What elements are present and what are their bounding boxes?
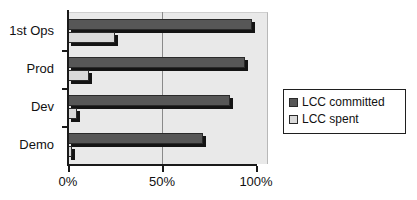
bar-body <box>68 19 252 30</box>
x-axis-tick <box>162 166 164 172</box>
y-axis-label: Prod <box>27 62 62 76</box>
y-axis-label: Dev <box>31 100 62 114</box>
y-axis-tick <box>62 126 68 128</box>
legend-item: LCC committed <box>289 94 400 111</box>
bar-shadow-bottom <box>71 43 118 46</box>
chart-legend: LCC committed LCC spent <box>283 89 406 134</box>
bar-shadow-bottom <box>71 144 206 147</box>
bar-body <box>68 70 89 81</box>
bar-shadow-bottom <box>71 68 248 71</box>
bar-body <box>68 108 77 119</box>
legend-label-spent: LCC spent <box>302 113 359 126</box>
bar-committed <box>68 95 230 106</box>
y-axis-labels: 1st OpsProdDevDemo <box>0 0 62 200</box>
bar-body <box>68 133 203 144</box>
x-axis-tick <box>68 166 70 172</box>
bar-body <box>68 32 115 43</box>
x-axis-label: 0% <box>38 174 98 189</box>
chart-figure: 1st OpsProdDevDemo 0%50%100% LCC committ… <box>0 0 417 200</box>
bar-committed <box>68 19 252 30</box>
bar-committed <box>68 57 245 68</box>
x-axis-label: 100% <box>226 174 286 189</box>
bar-body <box>68 57 245 68</box>
y-axis-tick <box>62 50 68 52</box>
bar-shadow-bottom <box>71 119 80 122</box>
x-axis-label: 50% <box>132 174 192 189</box>
bar-body <box>68 95 230 106</box>
legend-swatch-committed <box>289 98 298 107</box>
bar-shadow-bottom <box>71 157 75 160</box>
y-axis-label: Demo <box>19 138 62 152</box>
legend-label-committed: LCC committed <box>302 96 385 109</box>
legend-swatch-spent <box>289 115 298 124</box>
bar-spent <box>68 32 115 43</box>
bar-committed <box>68 133 203 144</box>
y-axis-tick <box>62 88 68 90</box>
legend-item: LCC spent <box>289 111 400 128</box>
x-axis-tick <box>256 166 258 172</box>
bar-spent <box>68 70 89 81</box>
bar-shadow-bottom <box>71 106 233 109</box>
bar-shadow-bottom <box>71 81 92 84</box>
bar-spent <box>68 108 77 119</box>
y-axis-label: 1st Ops <box>9 24 62 38</box>
